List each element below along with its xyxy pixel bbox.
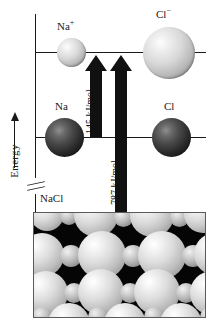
energy-axis-label: Energy — [8, 126, 20, 196]
na-atom-sphere — [45, 118, 84, 157]
crystal-anion — [184, 212, 206, 233]
energy-diagram: Energy Na+ Cl− Na Cl 145 kJ/mol 787 kJ/m… — [0, 0, 206, 324]
na-atom-label: Na — [55, 100, 68, 112]
na-cation-sphere — [57, 38, 86, 67]
crystal-anion — [194, 233, 206, 275]
cl-anion-label: Cl− — [156, 6, 171, 20]
na-cation-charge: + — [70, 18, 75, 27]
ionization-arrow-label: 145 kJ/mol — [84, 89, 95, 134]
nacl-crystal-lattice — [33, 212, 206, 318]
na-cation-symbol: Na — [57, 20, 70, 32]
cl-anion-symbol: Cl — [156, 8, 166, 20]
nacl-solid-label: NaCl — [40, 192, 63, 204]
cl-atom-sphere — [152, 118, 191, 157]
lattice-arrow-label: 787 kJ/mol — [109, 160, 120, 205]
cl-anion-charge: − — [166, 6, 171, 15]
cl-anion-sphere — [143, 27, 195, 79]
cl-atom-label: Cl — [164, 100, 174, 112]
na-cation-label: Na+ — [57, 18, 74, 32]
